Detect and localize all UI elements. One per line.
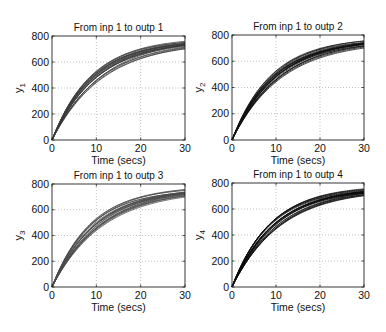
- y-tick-label: 200: [31, 108, 49, 120]
- y-tick-label: 200: [211, 255, 229, 267]
- x-tick-label: 30: [358, 289, 370, 301]
- y-tick-label: 400: [211, 81, 229, 93]
- x-axis-label: Time (secs): [271, 154, 325, 166]
- y-tick-label: 200: [31, 255, 49, 267]
- y-axis-label: y1: [12, 82, 27, 93]
- y-tick-label: 800: [31, 30, 49, 42]
- subplot-title: From inp 1 to outp 2: [253, 21, 343, 32]
- x-tick-label: 30: [179, 289, 191, 301]
- y-tick-label: 600: [31, 56, 49, 68]
- x-tick-label: 0: [49, 289, 55, 301]
- y-tick-label: 400: [211, 229, 229, 241]
- x-tick-label: 30: [358, 142, 370, 154]
- subplot-1: 01020300200400600800From inp 1 to outp 1…: [12, 22, 191, 166]
- x-tick-label: 0: [229, 142, 235, 154]
- y-axis-label: y3: [12, 230, 27, 241]
- subplot-title: From inp 1 to outp 1: [74, 22, 164, 33]
- x-axis-label: Time (secs): [91, 301, 145, 313]
- y-tick-label: 600: [211, 203, 229, 215]
- x-tick-label: 0: [229, 289, 235, 301]
- y-tick-label: 0: [43, 281, 49, 293]
- y-tick-label: 800: [211, 177, 229, 189]
- x-tick-label: 10: [90, 142, 102, 154]
- x-tick-label: 30: [179, 142, 191, 154]
- y-tick-label: 400: [31, 82, 49, 94]
- y-tick-label: 800: [31, 178, 49, 190]
- y-tick-label: 200: [211, 107, 229, 119]
- x-axis-label: Time (secs): [271, 301, 325, 313]
- x-tick-label: 20: [314, 142, 326, 154]
- y-tick-label: 600: [31, 203, 49, 215]
- y-tick-label: 0: [223, 134, 229, 146]
- subplot-3: 01020300200400600800From inp 1 to outp 3…: [12, 170, 191, 313]
- x-tick-label: 10: [90, 289, 102, 301]
- y-tick-label: 0: [43, 134, 49, 146]
- y-axis-label: y4: [192, 229, 207, 240]
- x-tick-label: 0: [49, 142, 55, 154]
- subplot-2: 01020300200400600800From inp 1 to outp 2…: [192, 21, 370, 166]
- y-tick-label: 600: [211, 55, 229, 67]
- y-tick-label: 400: [31, 229, 49, 241]
- x-tick-label: 10: [270, 142, 282, 154]
- y-axis-label: y2: [192, 82, 207, 93]
- x-axis-label: Time (secs): [91, 154, 145, 166]
- x-tick-label: 20: [135, 142, 147, 154]
- x-tick-label: 20: [135, 289, 147, 301]
- x-tick-label: 20: [314, 289, 326, 301]
- y-tick-label: 0: [223, 281, 229, 293]
- subplot-title: From inp 1 to outp 3: [74, 170, 164, 181]
- figure: 01020300200400600800From inp 1 to outp 1…: [0, 0, 386, 332]
- x-tick-label: 10: [270, 289, 282, 301]
- y-tick-label: 800: [211, 29, 229, 41]
- subplot-title: From inp 1 to outp 4: [253, 169, 343, 180]
- subplot-4: 01020300200400600800From inp 1 to outp 4…: [192, 169, 370, 313]
